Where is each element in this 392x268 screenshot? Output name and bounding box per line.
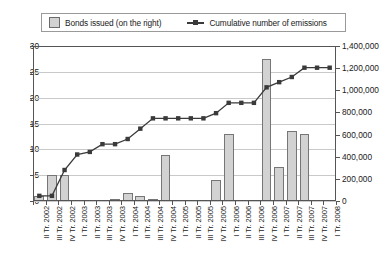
y-axis-right-tickmark: [336, 90, 340, 91]
x-axis-tickmark: [58, 201, 59, 205]
x-axis-label: II Tr. 2002: [42, 206, 51, 239]
y-axis-right-tickmark: [336, 135, 340, 136]
x-axis-labels: II Tr. 2002III Tr. 2002IV Tr. 2002I Tr. …: [33, 206, 336, 268]
y-axis-right-tick-label: 0: [342, 197, 392, 205]
x-axis-tickmark: [33, 201, 34, 205]
y-axis-right-tickmark: [336, 157, 340, 158]
x-axis-tickmark: [185, 201, 186, 205]
bar-swatch-icon: [49, 17, 60, 28]
x-axis-tickmark: [172, 201, 173, 205]
legend-label-line: Cumulative number of emissions: [209, 18, 326, 28]
x-axis-label: I Tr. 2004: [131, 206, 140, 237]
plot-area: [33, 46, 336, 201]
x-axis-label: IV Tr. 2004: [169, 206, 178, 242]
x-axis-label: III Tr. 2004: [156, 206, 165, 241]
x-axis-tickmark: [336, 201, 337, 205]
x-axis-tickmark: [159, 201, 160, 205]
x-axis-label: II Tr. 2004: [143, 206, 152, 239]
x-axis-label: I Tr. 2003: [80, 206, 89, 237]
x-axis-label: II Tr. 2007: [295, 206, 304, 239]
x-axis-tickmark: [298, 201, 299, 205]
x-axis-tickmark: [71, 201, 72, 205]
y-axis-right-tick-label: 1,200,000: [342, 64, 392, 72]
y-axis-right-tick-label: 600,000: [342, 131, 392, 139]
x-axis-tickmark: [84, 201, 85, 205]
x-axis-label: III Tr. 2006: [257, 206, 266, 241]
legend-label-bars: Bonds issued (on the right): [65, 18, 161, 28]
y-axis-right-tick-label: 1,000,000: [342, 86, 392, 94]
x-axis-label: III Tr. 2003: [105, 206, 114, 241]
line-marker-icon: [187, 18, 204, 27]
x-axis-tickmark: [273, 201, 274, 205]
x-axis-label: I Tr. 2006: [232, 206, 241, 237]
x-axis-tickmark: [248, 201, 249, 205]
y-axis-right-tickmark: [336, 179, 340, 180]
x-axis-tickmark: [260, 201, 261, 205]
x-axis-tickmark: [46, 201, 47, 205]
x-axis-tickmark: [311, 201, 312, 205]
x-axis-label: I Tr. 2005: [181, 206, 190, 237]
x-axis-label: IV Tr. 2007: [320, 206, 329, 242]
y-axis-right-tickmark: [336, 46, 340, 47]
legend-entry-line: Cumulative number of emissions: [187, 18, 326, 28]
x-axis-label: III Tr. 2005: [206, 206, 215, 241]
y-axis-right-tick-label: 400,000: [342, 153, 392, 161]
x-axis-tickmark: [222, 201, 223, 205]
x-axis-tickmark: [235, 201, 236, 205]
x-axis-label: IV Tr. 2005: [219, 206, 228, 242]
x-axis-label: III Tr. 2007: [307, 206, 316, 241]
x-axis-label: IV Tr. 2003: [118, 206, 127, 242]
y-axis-right-tick-label: 800,000: [342, 108, 392, 116]
x-axis-tickmark: [121, 201, 122, 205]
x-axis-tickmark: [96, 201, 97, 205]
x-axis-label: IV Tr. 2006: [270, 206, 279, 242]
chart-legend: Bonds issued (on the right) Cumulative n…: [41, 13, 346, 32]
x-axis-tickmark: [323, 201, 324, 205]
x-axis-label: I Tr. 2007: [282, 206, 291, 237]
y-axis-right-tickmark: [336, 112, 340, 113]
x-axis-tickmark: [197, 201, 198, 205]
x-axis-tickmark: [134, 201, 135, 205]
x-axis-label: III Tr. 2002: [55, 206, 64, 241]
y-axis-right-tickmark: [336, 68, 340, 69]
x-axis-tickmark: [286, 201, 287, 205]
x-axis-label: II Tr. 2006: [244, 206, 253, 239]
x-axis-label: IV Tr. 2002: [68, 206, 77, 242]
legend-entry-bars: Bonds issued (on the right): [49, 17, 161, 28]
plot-frame: [33, 46, 336, 201]
y-axis-right-tick-label: 1,400,000: [342, 42, 392, 50]
chart-container: Bonds issued (on the right) Cumulative n…: [0, 0, 392, 268]
x-axis-tickmark: [109, 201, 110, 205]
y-axis-right-tick-label: 200,000: [342, 175, 392, 183]
x-axis-label: II Tr. 2005: [194, 206, 203, 239]
x-axis-label: I Tr. 2008: [333, 206, 342, 237]
x-axis-tickmark: [210, 201, 211, 205]
x-axis-label: II Tr. 2003: [93, 206, 102, 239]
x-axis-tickmark: [147, 201, 148, 205]
